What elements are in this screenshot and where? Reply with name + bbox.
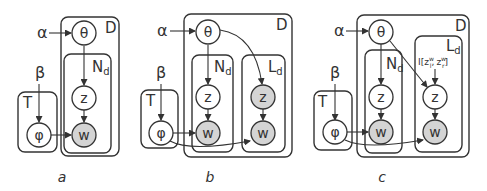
plate-t-label: T xyxy=(317,93,328,111)
svg-text:θ: θ xyxy=(377,24,386,40)
caption-a: a xyxy=(58,169,67,185)
beta-label: β xyxy=(156,63,166,82)
alpha-label: α xyxy=(37,23,48,42)
alpha-label: α xyxy=(334,21,345,40)
svg-text:w: w xyxy=(257,125,268,141)
plate-n-label: Nd xyxy=(214,58,232,77)
beta-label: β xyxy=(330,63,340,82)
plate-l-label: Ld xyxy=(446,37,461,56)
plate-l-label: Ld xyxy=(268,58,283,77)
svg-text:z: z xyxy=(259,89,266,105)
svg-text:w: w xyxy=(429,124,440,140)
beta-label: β xyxy=(35,63,45,82)
panel-a: D Nd T α β θ z w φ a xyxy=(18,17,119,185)
plate-n-label: Nd xyxy=(92,58,110,77)
svg-text:w: w xyxy=(78,127,89,143)
svg-text:z: z xyxy=(377,89,384,105)
indicator-label: I[zwl,zwr] xyxy=(418,55,448,69)
svg-text:w: w xyxy=(202,125,213,141)
plate-d-label: D xyxy=(105,19,117,37)
plate-d-label: D xyxy=(455,17,467,35)
panel-b: D Nd Ld T α β θ z w z w φ b xyxy=(141,14,292,185)
graphical-model-figure: D Nd T α β θ z w φ a D Nd Ld T α β xyxy=(0,0,487,191)
plate-n-label: Nd xyxy=(386,55,404,74)
plate-t-label: T xyxy=(145,92,156,110)
svg-text:φ: φ xyxy=(156,125,165,141)
svg-text:φ: φ xyxy=(34,127,43,143)
svg-text:z: z xyxy=(80,90,87,106)
alpha-label: α xyxy=(157,21,168,40)
svg-text:w: w xyxy=(375,124,386,140)
plate-t-label: T xyxy=(22,94,33,112)
caption-c: c xyxy=(378,169,386,185)
svg-text:θ: θ xyxy=(80,25,89,41)
svg-text:θ: θ xyxy=(204,24,213,40)
panel-c: D Nd Ld I[zwl,zwr] T α β θ z w z w φ c xyxy=(314,15,469,185)
svg-text:z: z xyxy=(431,89,438,105)
svg-text:z: z xyxy=(204,89,211,105)
plate-d-label: D xyxy=(276,16,288,34)
caption-b: b xyxy=(206,169,215,185)
svg-text:φ: φ xyxy=(330,124,339,140)
